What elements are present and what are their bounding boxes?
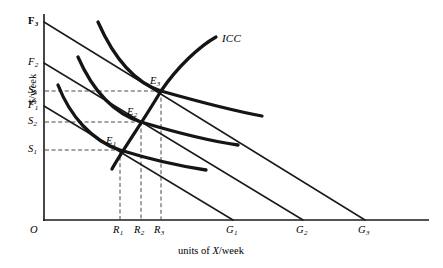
- origin-label: O: [30, 225, 38, 236]
- budget-lines-group: [44, 22, 365, 220]
- x-axis-title: units of X/week: [178, 245, 244, 256]
- budget-line-1: [44, 106, 233, 220]
- x-tick-label-R2: R2: [134, 225, 144, 236]
- axes-group: [43, 14, 429, 221]
- equilibrium-label-E2: E2: [127, 107, 137, 118]
- equilibrium-label-E1: E1: [106, 136, 116, 147]
- figure-root: F3 F2 S3 F1 S2 S1 O R1 R2 R3 G1 G2 G3 E1…: [0, 0, 443, 268]
- x-tick-label-G1: G1: [226, 225, 237, 236]
- x-tick-label-R3: R3: [154, 225, 164, 236]
- dashed-guides-group: [45, 91, 161, 219]
- y-tick-label-F3: F3: [28, 16, 38, 27]
- budget-line-3: [44, 22, 365, 220]
- y-tick-label-S1: S1: [28, 144, 37, 155]
- x-tick-label-G3: G3: [358, 225, 369, 236]
- indifference-curves-group: [58, 22, 262, 170]
- y-axis-title: $/week: [27, 57, 41, 121]
- x-tick-label-G2: G2: [296, 225, 307, 236]
- equilibrium-label-E3: E3: [150, 76, 160, 87]
- icc-curve-label: ICC: [222, 33, 241, 44]
- budget-line-2: [44, 63, 303, 220]
- x-tick-label-R1: R1: [113, 225, 123, 236]
